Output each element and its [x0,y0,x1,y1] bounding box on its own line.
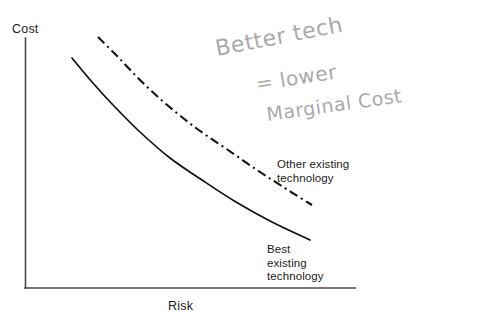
figure-canvas: Cost Risk Other existing technology Best… [0,0,491,323]
curve-label-best-existing-technology: Best existing technology [267,243,324,284]
x-axis-label: Risk [168,299,193,313]
curve-label-other-existing-technology: Other existing technology [277,158,349,185]
y-axis-label: Cost [12,22,39,36]
